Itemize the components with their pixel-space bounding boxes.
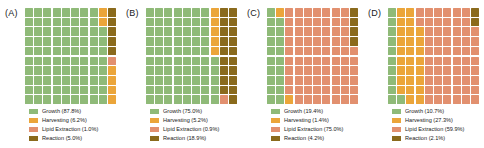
- waffle-cell: [434, 47, 442, 56]
- waffle-cell: [285, 8, 293, 17]
- waffle-cell: [80, 57, 88, 66]
- waffle-cell: [90, 47, 98, 56]
- waffle-cell: [453, 8, 461, 17]
- waffle-cell: [425, 37, 433, 46]
- waffle-cell: [34, 18, 42, 27]
- waffle-cell: [471, 57, 479, 66]
- waffle-cell: [350, 76, 358, 85]
- legend-swatch-icon: [392, 109, 401, 115]
- waffle-cell: [304, 27, 312, 36]
- waffle-cell: [25, 86, 33, 95]
- waffle-cell: [25, 27, 33, 36]
- waffle-cell: [434, 76, 442, 85]
- waffle-cell: [90, 86, 98, 95]
- waffle-cell: [416, 8, 424, 17]
- legend-label: Reaction (4.2%): [284, 134, 324, 143]
- waffle-cell: [62, 57, 70, 66]
- waffle-cell: [53, 8, 61, 17]
- legend-item: Harvesting (5.2%): [150, 116, 219, 125]
- waffle-cell: [53, 37, 61, 46]
- waffle-cell: [192, 27, 200, 36]
- waffle-cell: [53, 66, 61, 75]
- waffle-cell: [174, 37, 182, 46]
- waffle-cell: [80, 76, 88, 85]
- waffle-cell: [322, 66, 330, 75]
- waffle-cell: [108, 47, 116, 56]
- waffle-cell: [71, 76, 79, 85]
- waffle-cell: [25, 37, 33, 46]
- waffle-cell: [350, 86, 358, 95]
- waffle-cell: [164, 86, 172, 95]
- waffle-cell: [341, 66, 349, 75]
- panel-a: (A) Growth (87.8%)Harvesting (6.2%)Lipid…: [0, 0, 121, 148]
- waffle-cell: [453, 76, 461, 85]
- waffle-cell: [164, 95, 172, 104]
- legend-item: Growth (10.7%): [392, 107, 464, 116]
- waffle-cell: [388, 8, 396, 17]
- waffle-cell: [425, 47, 433, 56]
- waffle-cell: [62, 76, 70, 85]
- waffle-cell: [164, 57, 172, 66]
- waffle-cell: [332, 47, 340, 56]
- waffle-cell: [108, 27, 116, 36]
- waffle-cell: [471, 76, 479, 85]
- waffle-cell: [62, 47, 70, 56]
- waffle-cell: [267, 57, 275, 66]
- waffle-cell: [350, 8, 358, 17]
- waffle-cell: [471, 37, 479, 46]
- waffle-grid-d: [388, 8, 479, 104]
- waffle-cell: [462, 27, 470, 36]
- waffle-cell: [462, 66, 470, 75]
- waffle-cell: [285, 27, 293, 36]
- waffle-cell: [285, 57, 293, 66]
- waffle-cell: [276, 8, 284, 17]
- waffle-cell: [34, 66, 42, 75]
- waffle-cell: [443, 47, 451, 56]
- waffle-cell: [332, 27, 340, 36]
- waffle-cell: [90, 95, 98, 104]
- waffle-cell: [322, 8, 330, 17]
- waffle-cell: [90, 76, 98, 85]
- legend-label: Lipid Extraction (75.0%): [284, 125, 343, 134]
- waffle-cell: [201, 37, 209, 46]
- waffle-cell: [62, 66, 70, 75]
- waffle-cell: [155, 86, 163, 95]
- waffle-cell: [90, 66, 98, 75]
- legend-swatch-icon: [271, 127, 280, 133]
- legend-swatch-icon: [150, 136, 159, 142]
- waffle-cell: [34, 47, 42, 56]
- waffle-cell: [416, 95, 424, 104]
- waffle-cell: [388, 76, 396, 85]
- legend-a: Growth (87.8%)Harvesting (6.2%)Lipid Ext…: [29, 107, 98, 143]
- waffle-cell: [462, 47, 470, 56]
- legend-swatch-icon: [271, 136, 280, 142]
- waffle-cell: [192, 8, 200, 17]
- waffle-chart-figure: (A) Growth (87.8%)Harvesting (6.2%)Lipid…: [0, 0, 484, 148]
- waffle-cell: [192, 47, 200, 56]
- waffle-cell: [80, 18, 88, 27]
- waffle-cell: [174, 47, 182, 56]
- waffle-cell: [71, 86, 79, 95]
- legend-label: Growth (75.0%): [163, 107, 202, 116]
- waffle-cell: [34, 8, 42, 17]
- waffle-cell: [304, 47, 312, 56]
- waffle-cell: [443, 57, 451, 66]
- waffle-cell: [453, 95, 461, 104]
- waffle-cell: [174, 18, 182, 27]
- waffle-cell: [90, 37, 98, 46]
- waffle-cell: [43, 37, 51, 46]
- waffle-cell: [388, 95, 396, 104]
- legend-c: Growth (19.4%)Harvesting (1.4%)Lipid Ext…: [271, 107, 343, 143]
- waffle-cell: [229, 95, 237, 104]
- waffle-cell: [388, 57, 396, 66]
- legend-label: Harvesting (27.3%): [405, 116, 453, 125]
- waffle-cell: [108, 86, 116, 95]
- waffle-cell: [90, 57, 98, 66]
- waffle-grid-b: [146, 8, 237, 104]
- waffle-cell: [155, 18, 163, 27]
- waffle-cell: [313, 95, 321, 104]
- waffle-cell: [388, 27, 396, 36]
- waffle-cell: [201, 95, 209, 104]
- waffle-cell: [434, 57, 442, 66]
- waffle-cell: [220, 8, 228, 17]
